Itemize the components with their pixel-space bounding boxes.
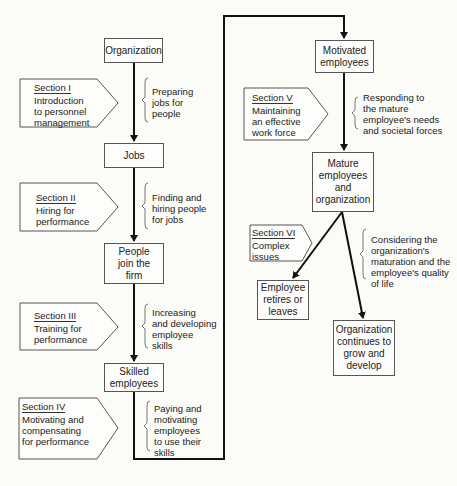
note-paying-motivating: Paying and motivating employees to use t… bbox=[154, 403, 202, 458]
node-mature-employees: Mature employees and organization bbox=[312, 152, 374, 212]
section-title: Section V bbox=[252, 92, 293, 104]
note-responding-mature: Responding to the mature employee's need… bbox=[363, 92, 442, 136]
section-1-label: Section I Introduction to personnel mana… bbox=[34, 82, 89, 128]
section-body: Complex issues bbox=[252, 240, 295, 262]
section-title: Section I bbox=[34, 82, 71, 94]
section-body: Introduction to personnel management bbox=[34, 95, 89, 128]
section-body: Maintaining an effective work force bbox=[252, 105, 301, 138]
section-body: Training for performance bbox=[34, 323, 87, 345]
note-finding-hiring: Finding and hiring people for jobs bbox=[152, 192, 206, 225]
section-3-label: Section III Training for performance bbox=[34, 310, 87, 345]
node-motivated-employees: Motivated employees bbox=[315, 40, 374, 73]
note-increasing-skills: Increasing and developing employee skill… bbox=[152, 307, 216, 351]
section-4-label: Section IV Motivating and compensating f… bbox=[22, 401, 89, 447]
node-organization-continues: Organization continues to grow and devel… bbox=[333, 320, 395, 376]
note-preparing-jobs: Preparing jobs for people bbox=[152, 86, 193, 119]
section-title: Section IV bbox=[22, 401, 65, 413]
node-skilled-employees: Skilled employees bbox=[104, 363, 164, 392]
section-title: Section VI bbox=[252, 227, 295, 239]
node-employee-retires: Employee retires or leaves bbox=[257, 280, 309, 320]
note-considering-maturation: Considering the organization's maturatio… bbox=[371, 234, 450, 289]
section-title: Section III bbox=[34, 310, 76, 322]
node-people-join-firm: People join the firm bbox=[104, 243, 164, 284]
node-jobs: Jobs bbox=[104, 143, 164, 168]
section-2-label: Section II Hiring for performance bbox=[36, 192, 89, 227]
node-organization: Organization bbox=[104, 38, 163, 63]
section-title: Section II bbox=[36, 192, 76, 204]
section-body: Motivating and compensating for performa… bbox=[22, 414, 89, 447]
section-5-label: Section V Maintaining an effective work … bbox=[252, 92, 301, 138]
section-6-label: Section VI Complex issues bbox=[252, 227, 295, 262]
section-body: Hiring for performance bbox=[36, 205, 89, 227]
